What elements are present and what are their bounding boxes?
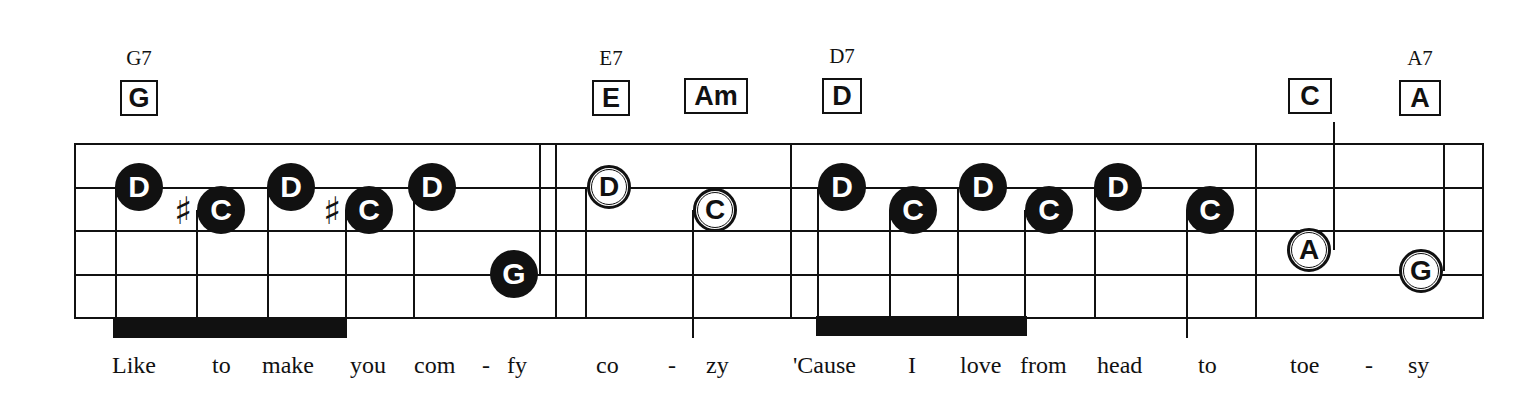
note-d[interactable]: D <box>959 163 1007 211</box>
chord-box-a[interactable]: A <box>1399 80 1441 116</box>
note-d[interactable]: D <box>115 163 163 211</box>
lyric-syllable: co <box>596 350 619 380</box>
staff-line-3 <box>74 230 1484 232</box>
note-g[interactable]: G <box>490 250 538 298</box>
staff-line-1 <box>74 143 1484 145</box>
lyric-hyphen: - <box>1365 350 1373 380</box>
note-c-sharp[interactable]: C <box>197 186 245 234</box>
stem <box>889 210 891 319</box>
note-d-half[interactable]: D <box>587 165 631 209</box>
sharp-icon: ♯ <box>174 192 192 230</box>
lyric-syllable: zy <box>706 350 729 380</box>
note-a-half[interactable]: A <box>1287 228 1331 272</box>
chord-label-a7: A7 <box>1407 48 1433 68</box>
note-d[interactable]: D <box>818 163 866 211</box>
lyric-syllable: to <box>1198 350 1217 380</box>
note-g-half[interactable]: G <box>1399 249 1443 293</box>
staff-line-4 <box>74 274 1484 276</box>
stem <box>413 187 415 319</box>
note-c[interactable]: C <box>889 186 937 234</box>
lyric-syllable: to <box>212 350 231 380</box>
chord-box-c[interactable]: C <box>1288 78 1332 114</box>
barline-end <box>1482 143 1484 319</box>
stem <box>1333 122 1335 250</box>
barline-1 <box>555 143 557 319</box>
barline-3 <box>1255 143 1257 319</box>
chord-box-g[interactable]: G <box>120 80 158 116</box>
sharp-icon: ♯ <box>323 192 341 230</box>
sheet-music: G7 G E7 E Am D7 D C A7 A <box>0 0 1539 397</box>
chord-label-d7: D7 <box>829 46 855 66</box>
stem <box>585 187 587 319</box>
stem <box>817 187 819 319</box>
lyric-syllable: from <box>1020 350 1067 380</box>
barline-start <box>74 143 76 319</box>
chord-box-am[interactable]: Am <box>684 78 748 114</box>
stem <box>196 210 198 319</box>
stem <box>1094 187 1096 319</box>
stem <box>345 210 347 319</box>
lyric-syllable: toe <box>1290 350 1319 380</box>
lyric-syllable: head <box>1097 350 1142 380</box>
lyric-syllable: Like <box>112 350 156 380</box>
stem <box>115 187 117 319</box>
stem <box>1186 210 1188 338</box>
chord-label-g7: G7 <box>126 48 152 68</box>
chord-label-e7: E7 <box>599 48 622 68</box>
lyric-syllable: make <box>262 350 314 380</box>
stem <box>692 210 694 338</box>
stem <box>957 187 959 319</box>
lyric-hyphen: - <box>668 350 676 380</box>
lyric-syllable: fy <box>507 350 527 380</box>
note-c-half[interactable]: C <box>693 188 737 232</box>
lyric-syllable: love <box>960 350 1001 380</box>
note-c-sharp[interactable]: C <box>345 186 393 234</box>
lyric-syllable: 'Cause <box>793 350 856 380</box>
stem <box>267 187 269 319</box>
barline-2 <box>790 143 792 319</box>
note-c[interactable]: C <box>1025 186 1073 234</box>
chord-box-d[interactable]: D <box>822 78 862 114</box>
note-c[interactable]: C <box>1186 186 1234 234</box>
note-d[interactable]: D <box>408 163 456 211</box>
beam-2 <box>816 316 1027 336</box>
stem <box>539 143 541 275</box>
stem <box>1443 143 1445 271</box>
lyric-syllable: sy <box>1408 350 1429 380</box>
lyric-syllable: com <box>414 350 455 380</box>
lyric-hyphen: - <box>482 350 490 380</box>
stem <box>1024 210 1026 319</box>
chord-box-e[interactable]: E <box>592 80 630 116</box>
lyric-syllable: you <box>350 350 386 380</box>
note-d[interactable]: D <box>267 163 315 211</box>
beam-1 <box>113 318 347 338</box>
note-d[interactable]: D <box>1094 163 1142 211</box>
lyric-syllable: I <box>908 350 916 380</box>
